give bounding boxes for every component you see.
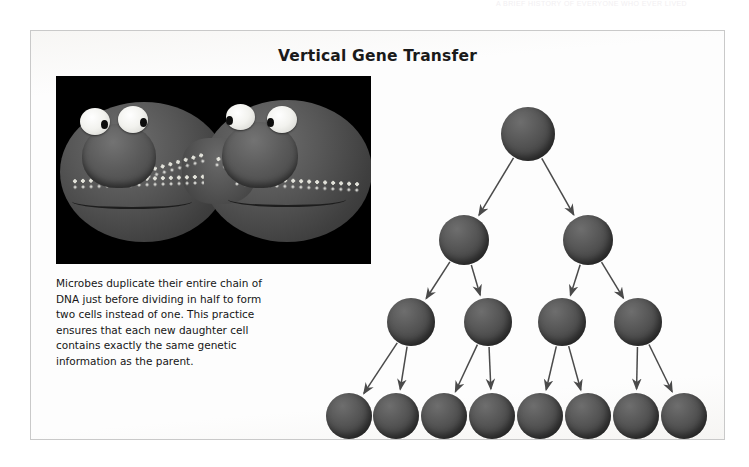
lineage-cell-g1-1 xyxy=(501,107,555,161)
lineage-edge xyxy=(426,262,450,299)
lineage-edge xyxy=(542,158,574,214)
figure-frame: Vertical Gene Transfer Microbes duplicat… xyxy=(30,30,725,440)
lineage-cell-g3-3 xyxy=(538,298,586,346)
lineage-edge xyxy=(546,346,556,389)
lineage-edge xyxy=(570,265,580,296)
lineage-edge xyxy=(649,344,672,391)
figure-caption: Microbes duplicate their entire chain of… xyxy=(56,276,268,370)
lineage-cell-g4-3 xyxy=(421,393,467,439)
lineage-edge xyxy=(637,347,638,389)
lineage-edge xyxy=(400,347,407,390)
pupil-right-outer xyxy=(267,118,274,127)
lineage-cell-g4-7 xyxy=(613,393,659,439)
pupil-right-inner xyxy=(226,116,233,125)
lineage-tree-edges xyxy=(276,59,726,439)
lineage-cell-g2-1 xyxy=(439,215,489,265)
lineage-cell-g3-1 xyxy=(387,298,435,346)
lineage-cell-g2-2 xyxy=(563,215,613,265)
lineage-cell-g4-4 xyxy=(469,393,515,439)
lineage-cell-g4-5 xyxy=(517,393,563,439)
lineage-cell-g4-8 xyxy=(661,393,707,439)
running-header: A BRIEF HISTORY OF EVERYONE WHO EVER LIV… xyxy=(496,0,687,7)
lineage-edge xyxy=(602,262,624,298)
lineage-edge xyxy=(471,265,480,295)
lineage-edge xyxy=(569,346,581,390)
lineage-edge xyxy=(489,347,491,389)
lineage-tree-diagram xyxy=(276,59,726,439)
pupil-left-outer xyxy=(101,120,108,129)
lineage-edge xyxy=(455,345,477,392)
pupil-left-inner xyxy=(140,118,147,127)
lineage-cell-g4-1 xyxy=(326,393,372,439)
lineage-edge xyxy=(479,158,514,215)
lineage-cell-g4-6 xyxy=(565,393,611,439)
lineage-cell-g3-4 xyxy=(614,298,662,346)
lineage-cell-g3-2 xyxy=(464,298,512,346)
lineage-cell-g4-2 xyxy=(373,393,419,439)
mouth-left-shape xyxy=(72,194,192,209)
lineage-edge xyxy=(364,343,397,394)
